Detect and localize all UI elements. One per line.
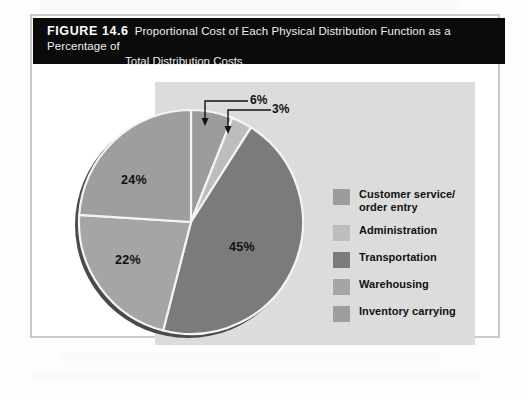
chart-legend: Customer service/ order entry Administra… xyxy=(333,188,478,332)
pie-slice-group xyxy=(79,110,303,334)
legend-swatch-inventory-carrying xyxy=(333,306,350,322)
legend-label-transportation: Transportation xyxy=(359,251,437,264)
figure-title-line-2: Total Distribution Costs xyxy=(125,54,493,69)
callout-3-line xyxy=(228,110,271,126)
legend-label-warehousing: Warehousing xyxy=(359,278,429,291)
callout-3-arrowhead xyxy=(225,126,232,134)
pie-slice-inventory[interactable] xyxy=(79,110,191,222)
legend-swatch-transportation xyxy=(333,252,350,268)
legend-item-transportation[interactable]: Transportation xyxy=(333,251,478,268)
legend-label-customer-service: Customer service/ order entry xyxy=(359,188,455,214)
legend-swatch-administration xyxy=(333,225,350,241)
callout-6-arrowhead xyxy=(202,118,209,126)
slice-label-inventory: 24% xyxy=(121,173,147,187)
legend-label-customer-service-line2: order entry xyxy=(359,201,455,214)
legend-label-customer-service-line1: Customer service/ xyxy=(359,188,455,201)
callout-label-3: 3% xyxy=(272,102,290,116)
legend-item-customer-service[interactable]: Customer service/ order entry xyxy=(333,188,478,214)
slice-label-warehousing: 22% xyxy=(115,253,141,267)
callout-label-6: 6% xyxy=(250,93,268,107)
legend-swatch-customer-service xyxy=(333,189,350,205)
legend-item-administration[interactable]: Administration xyxy=(333,224,478,241)
figure-number-label: FIGURE 14.6 xyxy=(47,24,129,38)
legend-label-inventory-carrying: Inventory carrying xyxy=(359,305,456,318)
slice-label-transportation: 45% xyxy=(229,240,255,254)
legend-item-warehousing[interactable]: Warehousing xyxy=(333,278,478,295)
figure-caption-bar: FIGURE 14.6Proportional Cost of Each Phy… xyxy=(33,18,505,64)
legend-swatch-warehousing xyxy=(333,279,350,295)
figure-caption-line-1: FIGURE 14.6Proportional Cost of Each Phy… xyxy=(47,24,493,54)
legend-item-inventory-carrying[interactable]: Inventory carrying xyxy=(333,305,478,322)
legend-label-administration: Administration xyxy=(359,224,437,237)
